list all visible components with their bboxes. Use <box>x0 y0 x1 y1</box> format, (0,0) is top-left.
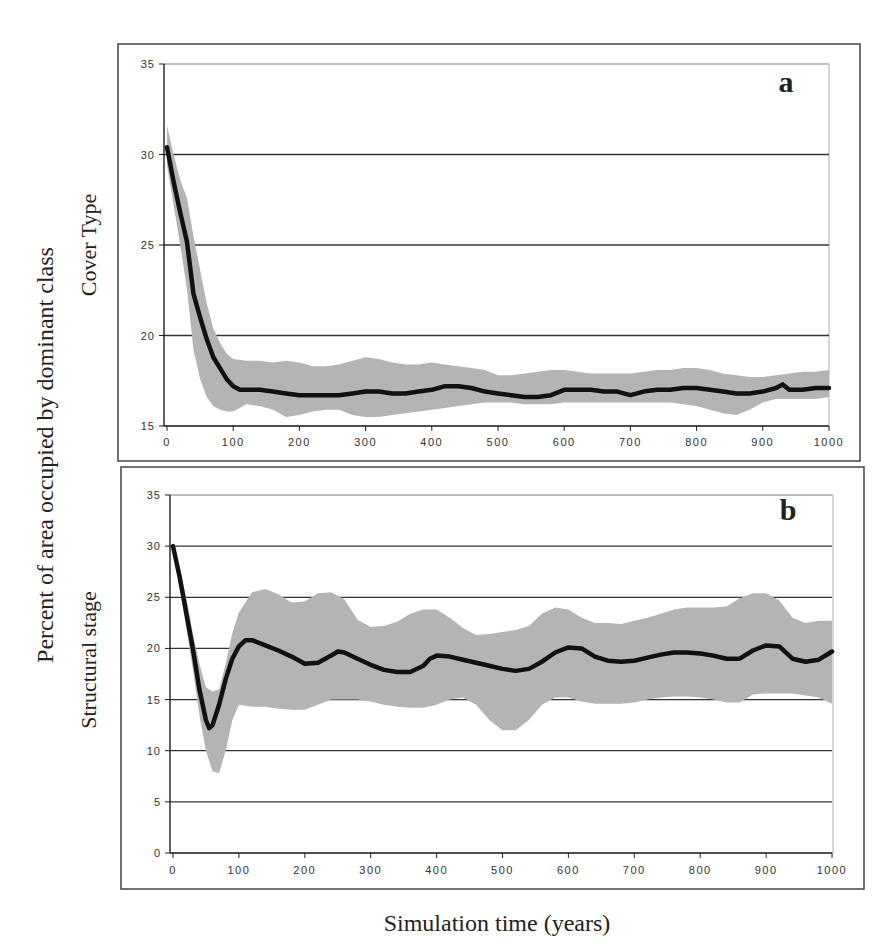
y-tick-label: 25 <box>141 239 155 251</box>
x-tick-label: 200 <box>293 864 316 876</box>
x-tick-label: 800 <box>689 864 712 876</box>
y-tick-label: 15 <box>141 420 155 432</box>
panel-b-structural-stage: 0510152025303501002003004005006007008009… <box>76 467 864 889</box>
x-tick-label: 600 <box>553 436 576 448</box>
panel-a-cover-type: 1520253035010020030040050060070080090010… <box>76 44 860 461</box>
panel-a-panel-label: a <box>779 65 794 98</box>
x-tick-label: 700 <box>623 864 646 876</box>
shared-y-axis-label: Percent of area occupied by dominant cla… <box>32 247 58 663</box>
x-tick-label: 1000 <box>814 436 844 448</box>
x-tick-label: 300 <box>359 864 382 876</box>
panel-b-y-axis-label: Structural stage <box>76 591 101 728</box>
y-tick-label: 25 <box>147 591 161 603</box>
x-tick-label: 400 <box>420 436 443 448</box>
x-tick-label: 900 <box>751 436 774 448</box>
x-tick-label: 100 <box>222 436 245 448</box>
y-tick-label: 15 <box>147 694 161 706</box>
x-tick-label: 900 <box>755 864 778 876</box>
x-tick-label: 800 <box>685 436 708 448</box>
x-tick-label: 300 <box>354 436 377 448</box>
y-tick-label: 35 <box>147 489 161 501</box>
x-tick-label: 1000 <box>817 864 847 876</box>
panel-b-panel-label: b <box>780 493 797 526</box>
panel-a-y-axis-label: Cover Type <box>76 194 101 297</box>
x-tick-label: 500 <box>491 864 514 876</box>
y-tick-label: 30 <box>141 149 155 161</box>
x-tick-label: 200 <box>288 436 311 448</box>
y-tick-label: 10 <box>147 745 161 757</box>
x-tick-label: 0 <box>163 436 171 448</box>
x-tick-label: 100 <box>227 864 250 876</box>
x-tick-label: 500 <box>487 436 510 448</box>
y-tick-label: 20 <box>141 330 155 342</box>
y-tick-label: 5 <box>154 796 161 808</box>
x-tick-label: 600 <box>557 864 580 876</box>
x-tick-label: 700 <box>619 436 642 448</box>
x-tick-label: 400 <box>425 864 448 876</box>
x-tick-label: 0 <box>169 864 177 876</box>
y-tick-label: 30 <box>147 540 161 552</box>
figure: Percent of area occupied by dominant cla… <box>0 0 891 950</box>
y-tick-label: 20 <box>147 642 161 654</box>
shared-x-axis-label: Simulation time (years) <box>384 910 611 936</box>
y-tick-label: 35 <box>141 58 155 70</box>
y-tick-label: 0 <box>154 847 161 859</box>
